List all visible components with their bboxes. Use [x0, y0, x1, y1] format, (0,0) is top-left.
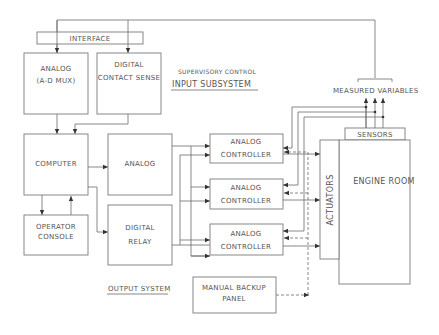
- input-subsystem-label: INPUT SUBSYSTEM: [172, 80, 251, 89]
- svg-text:CONTACT SENSE: CONTACT SENSE: [98, 74, 160, 82]
- output-system-label: OUTPUT SYSTEM: [108, 285, 171, 293]
- svg-text:RELAY: RELAY: [128, 238, 152, 246]
- analog-controller-3: ANALOG CONTROLLER: [210, 224, 283, 255]
- svg-text:INTERFACE: INTERFACE: [70, 35, 111, 43]
- svg-text:ANALOG: ANALOG: [230, 138, 261, 146]
- svg-text:ENGINE ROOM: ENGINE ROOM: [353, 177, 415, 186]
- svg-text:(A-D MUX): (A-D MUX): [37, 77, 76, 85]
- svg-text:DIGITAL: DIGITAL: [125, 224, 154, 232]
- svg-text:CONSOLE: CONSOLE: [38, 233, 74, 241]
- svg-text:CONTROLLER: CONTROLLER: [221, 151, 271, 159]
- svg-text:ANALOG: ANALOG: [230, 230, 261, 238]
- analog-mux-block: ANALOG (A-D MUX): [24, 53, 88, 114]
- digital-relay-block: DIGITAL RELAY: [108, 205, 172, 265]
- computer-block: COMPUTER: [24, 134, 88, 195]
- svg-text:SENSORS: SENSORS: [357, 131, 393, 139]
- digital-contact-sense-block: DIGITAL CONTACT SENSE: [97, 53, 161, 114]
- svg-text:ANALOG: ANALOG: [230, 184, 261, 192]
- svg-text:ACTUATORS: ACTUATORS: [326, 174, 335, 225]
- svg-text:PANEL: PANEL: [222, 295, 246, 303]
- svg-text:ANALOG: ANALOG: [124, 160, 155, 168]
- svg-text:CONTROLLER: CONTROLLER: [221, 243, 271, 251]
- actuators-block: ACTUATORS: [320, 140, 339, 259]
- control-system-diagram: INTERFACE ANALOG (A-D MUX) DIGITAL CONTA…: [0, 0, 439, 335]
- svg-text:ANALOG: ANALOG: [40, 65, 71, 73]
- supervisory-label: SUPERVISORY CONTROL: [178, 68, 257, 75]
- svg-text:COMPUTER: COMPUTER: [35, 160, 77, 168]
- svg-text:CONTROLLER: CONTROLLER: [221, 197, 271, 205]
- analog-controller-1: ANALOG CONTROLLER: [210, 134, 283, 163]
- operator-console-block: OPERATOR CONSOLE: [24, 215, 88, 255]
- svg-text:MANUAL BACKUP: MANUAL BACKUP: [202, 284, 266, 292]
- svg-text:OPERATOR: OPERATOR: [36, 223, 76, 231]
- measured-variables-label: MEASURED VARIABLES: [333, 87, 419, 95]
- interface-block: INTERFACE: [37, 32, 143, 44]
- analog-controller-2: ANALOG CONTROLLER: [210, 179, 283, 209]
- analog-output-block: ANALOG: [108, 134, 172, 195]
- manual-backup-panel-block: MANUAL BACKUP PANEL: [193, 277, 276, 313]
- engine-room-block: ENGINE ROOM: [339, 140, 415, 284]
- svg-text:DIGITAL: DIGITAL: [114, 61, 143, 69]
- brace: [358, 79, 392, 82]
- sensors-block: SENSORS: [345, 128, 405, 140]
